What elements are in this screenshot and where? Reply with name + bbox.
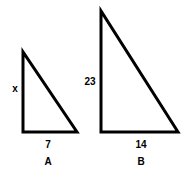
triangle-a-outline [23, 52, 77, 132]
triangle-b-vertical-leg-label: 23 [82, 77, 98, 87]
triangle-b-name-label: B [131, 157, 151, 167]
triangles-canvas [0, 0, 191, 177]
triangle-b-outline [101, 11, 178, 132]
similar-triangles-figure: x 7 A 23 14 B [0, 0, 191, 177]
triangle-b-base-label: 14 [130, 140, 152, 150]
triangle-a-base-label: 7 [38, 140, 58, 150]
triangle-a-name-label: A [38, 157, 58, 167]
triangle-a-vertical-leg-label: x [8, 84, 22, 94]
